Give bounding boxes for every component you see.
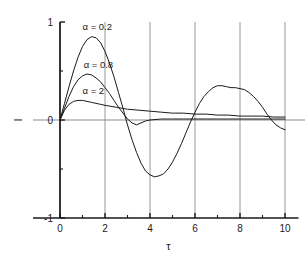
annotation-label-0: α = 0.2 xyxy=(83,21,113,32)
damped-response-chart: 0246810-101 α = 0.2α = 0.8α = 2 τI xyxy=(0,0,305,261)
chart-container: 0246810-101 α = 0.2α = 0.8α = 2 τI xyxy=(0,0,305,261)
y-tick-label--1: -1 xyxy=(44,213,53,224)
x-tick-label-4: 4 xyxy=(147,223,153,234)
x-tick-label-6: 6 xyxy=(192,223,198,234)
x-tick-label-2: 2 xyxy=(102,223,108,234)
annotation-label-2: α = 2 xyxy=(83,85,105,96)
y-tick-label-0: 0 xyxy=(47,115,53,126)
x-tick-label-8: 8 xyxy=(237,223,243,234)
y-axis-title: I xyxy=(12,118,24,121)
x-tick-label-10: 10 xyxy=(279,223,291,234)
annotation-label-1: α = 0.8 xyxy=(84,59,114,70)
x-tick-label-0: 0 xyxy=(57,223,63,234)
y-tick-label-1: 1 xyxy=(47,17,53,28)
x-axis-title: τ xyxy=(166,240,171,252)
